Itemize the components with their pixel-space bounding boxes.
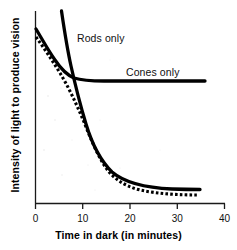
dark-adaptation-chart: 0 10 20 30 40 Rods only Cones only Time … — [0, 0, 237, 250]
x-tick-label-10: 10 — [77, 213, 89, 224]
series-combined-dashed-curve — [36, 37, 198, 195]
rods-only-label: Rods only — [77, 32, 125, 44]
x-axis-ticks — [36, 204, 225, 210]
x-tick-label-30: 30 — [172, 213, 184, 224]
x-tick-label-40: 40 — [219, 213, 231, 224]
x-axis-title: Time in dark (in minutes) — [0, 229, 237, 241]
cones-only-label: Cones only — [126, 66, 180, 78]
y-axis-title: Intensity of light to produce vision — [9, 17, 21, 192]
x-tick-label-0: 0 — [33, 213, 39, 224]
x-tick-label-20: 20 — [124, 213, 136, 224]
y-axis-title-container: Intensity of light to produce vision — [0, 0, 30, 210]
background-speckles — [43, 60, 160, 191]
